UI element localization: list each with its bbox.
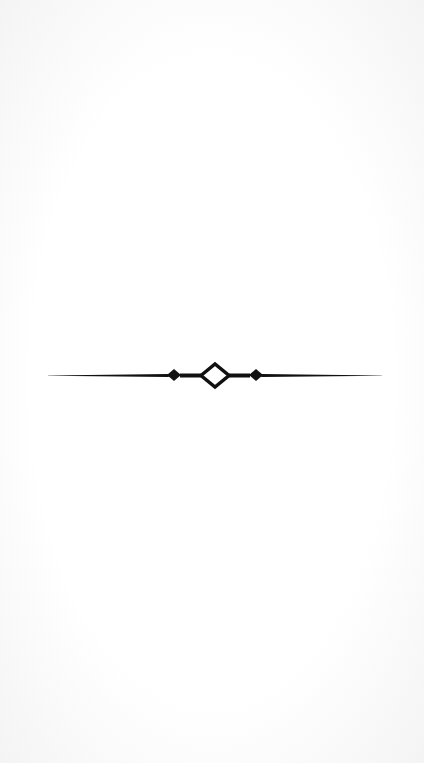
page: [0, 0, 424, 763]
ornamental-divider-icon: [48, 360, 382, 390]
